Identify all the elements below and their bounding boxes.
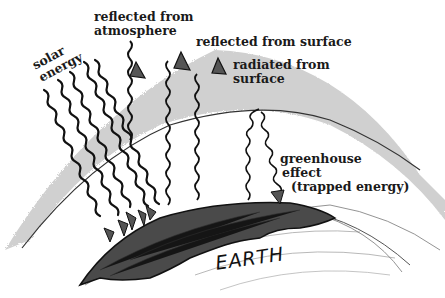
label-greenhouse-effect: greenhouse effect (trapped energy): [280, 152, 409, 194]
label-greenhouse-line2: effect: [280, 166, 409, 180]
label-reflected-from-surface: reflected from surface: [196, 35, 352, 49]
label-greenhouse-line3: (trapped energy): [280, 180, 409, 194]
label-refl-atm-line1: reflected from: [94, 10, 194, 24]
greenhouse-trapped-arrow: [246, 109, 284, 204]
label-refl-surf-text: reflected from surface: [196, 35, 352, 49]
label-reflected-from-atmosphere: reflected from atmosphere: [94, 10, 194, 38]
greenhouse-diagram: solar energy reflected from atmosphere r…: [0, 0, 445, 298]
label-rad-surf-line2: surface: [233, 72, 330, 86]
label-refl-atm-line2: atmosphere: [94, 24, 194, 38]
label-radiated-from-surface: radiated from surface: [233, 58, 330, 86]
label-greenhouse-line1: greenhouse: [280, 152, 409, 166]
label-rad-surf-line1: radiated from: [233, 58, 330, 72]
